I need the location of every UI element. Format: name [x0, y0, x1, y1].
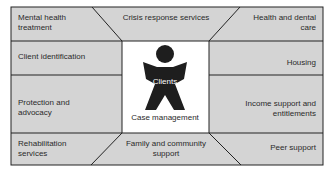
- cell-bottom-center: Family and community support: [115, 139, 217, 159]
- cell-left-upper: Client identification: [18, 52, 88, 62]
- case-management-label: Case management: [130, 113, 200, 123]
- clients-label: Clients: [140, 77, 190, 87]
- cell-right-lower: Income support and entitlements: [222, 99, 316, 119]
- cell-top-left: Mental health treatment: [18, 13, 93, 33]
- cell-top-right: Health and dental care: [248, 13, 316, 33]
- cell-top-center: Crisis response services: [120, 13, 212, 23]
- cell-bottom-left: Rehabilitation services: [18, 139, 78, 159]
- cell-left-lower: Protection and advocacy: [18, 98, 98, 118]
- cell-right-upper: Housing: [230, 58, 316, 68]
- cell-bottom-right: Peer support: [250, 143, 316, 153]
